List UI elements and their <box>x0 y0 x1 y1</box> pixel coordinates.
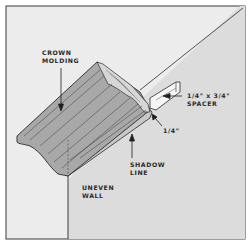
crown-molding-label-line2: MOLDING <box>42 57 79 65</box>
uneven-wall-label: UNEVEN WALL <box>82 184 114 200</box>
spacer-label: 1/4" x 3/4" SPACER <box>187 92 230 108</box>
crown-molding-label: CROWN MOLDING <box>42 49 79 65</box>
spacer-label-line2: SPACER <box>187 100 230 108</box>
crown-molding-label-line1: CROWN <box>42 49 79 57</box>
uneven-wall-label-line1: UNEVEN <box>82 184 114 192</box>
crown-molding-diagram: CROWN MOLDING 1/4" x 3/4" SPACER 1/4" SH… <box>0 0 251 245</box>
shadow-line-label-line2: LINE <box>130 169 165 177</box>
uneven-wall-label-line2: WALL <box>82 192 114 200</box>
diagram-illustration <box>0 0 251 245</box>
shadow-line-label: SHADOW LINE <box>130 161 165 177</box>
shadow-line-label-line1: SHADOW <box>130 161 165 169</box>
gap-label: 1/4" <box>163 127 180 135</box>
gap-label-text: 1/4" <box>163 127 180 135</box>
spacer-label-line1: 1/4" x 3/4" <box>187 92 230 100</box>
